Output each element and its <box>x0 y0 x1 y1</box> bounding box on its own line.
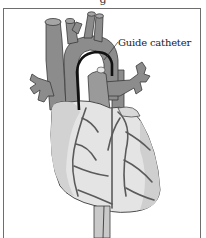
descending-aorta-lower <box>94 206 110 238</box>
guide-catheter-label: Guide catheter <box>118 37 191 48</box>
heart-diagram <box>0 0 206 238</box>
